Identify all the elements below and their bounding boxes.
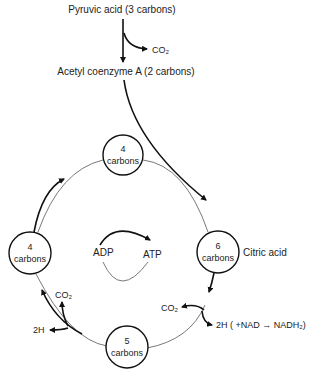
co2-label-right: CO₂ — [161, 303, 179, 313]
node-left-4-carbons: 4 carbons — [9, 232, 51, 274]
acetyl-coa-label: Acetyl coenzyme A (2 carbons) — [57, 66, 194, 77]
adp-atp-arrow — [100, 231, 150, 245]
co2-right-arrow — [182, 306, 204, 310]
node-right-6-carbons: 6 carbons — [197, 231, 239, 273]
cycle-arc-top-right — [143, 160, 208, 232]
svg-text:carbons: carbons — [111, 348, 144, 358]
h-nadh-label: 2H ( +NAD → NADH₂) — [216, 320, 306, 330]
co2-label-top: CO₂ — [152, 45, 170, 55]
co2-label-left: CO₂ — [55, 290, 73, 300]
krebs-cycle-diagram: Pyruvic acid (3 carbons) CO₂ Acetyl coen… — [0, 0, 317, 378]
svg-text:4: 4 — [120, 144, 125, 154]
citric-acid-label: Citric acid — [243, 247, 287, 258]
h-left-label: 2H — [33, 325, 45, 335]
citric-down-arrow — [209, 273, 214, 292]
atp-adp-return — [103, 262, 148, 281]
svg-text:4: 4 — [27, 242, 32, 252]
left-to-top-arrow — [34, 179, 64, 232]
pyruvic-acid-label: Pyruvic acid (3 carbons) — [68, 4, 175, 15]
h-left-arrow — [50, 328, 68, 330]
cycle-arc-bottom-left — [36, 274, 107, 346]
h-right-arrow — [202, 311, 212, 325]
svg-text:carbons: carbons — [107, 156, 140, 166]
svg-text:5: 5 — [124, 336, 129, 346]
co2-release-arrow — [124, 33, 147, 49]
svg-text:carbons: carbons — [14, 254, 47, 264]
svg-text:6: 6 — [215, 241, 220, 251]
adp-label: ADP — [93, 247, 114, 258]
cycle-arc-left-top — [38, 160, 103, 232]
node-bottom-5-carbons: 5 carbons — [106, 326, 148, 368]
svg-text:carbons: carbons — [202, 253, 235, 263]
atp-label: ATP — [143, 249, 162, 260]
node-top-4-carbons: 4 carbons — [103, 135, 143, 175]
